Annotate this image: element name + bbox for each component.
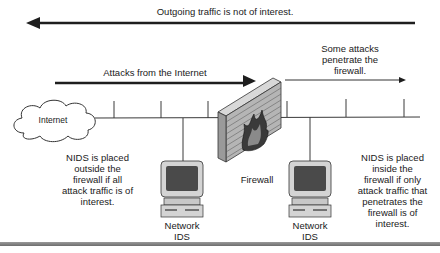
penetrate-label: Some attacks penetrate the firewall. xyxy=(310,43,390,76)
nids-left-computer-icon xyxy=(161,161,203,217)
firewall-label: Firewall xyxy=(232,174,282,185)
nids-left-label: Network IDS xyxy=(162,220,202,242)
internet-label: Internet xyxy=(28,115,78,126)
firewall-icon xyxy=(218,78,281,162)
note-outside-firewall: NIDS is placed outside the firewall if a… xyxy=(55,152,140,207)
outgoing-traffic-label: Outgoing traffic is not of interest. xyxy=(120,6,330,17)
nids-right-computer-icon xyxy=(289,161,331,217)
bottom-divider xyxy=(0,242,440,246)
outgoing-traffic-arrow xyxy=(26,17,415,29)
note-inside-firewall: NIDS is placed inside the firewall if on… xyxy=(350,152,435,229)
penetrate-arrow xyxy=(285,77,406,83)
nids-right-label: Network IDS xyxy=(290,220,330,242)
attacks-label: Attacks from the Internet xyxy=(95,67,215,78)
